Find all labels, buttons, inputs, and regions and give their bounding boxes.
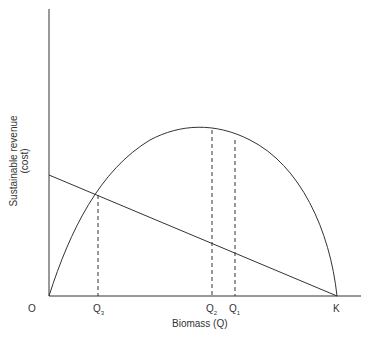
revenue-curve [49, 127, 337, 296]
k-label: K [333, 303, 340, 314]
q3-label: Q3 [93, 303, 104, 316]
y-axis-label: Sustainable revenue (cost) [8, 106, 30, 216]
q1-label: Q1 [229, 303, 240, 316]
q2-label: Q2 [206, 303, 217, 316]
diagram-canvas [0, 0, 369, 343]
origin-label: O [28, 303, 36, 314]
cost-line [49, 175, 337, 296]
x-axis-label: Biomass (Q) [172, 318, 228, 329]
